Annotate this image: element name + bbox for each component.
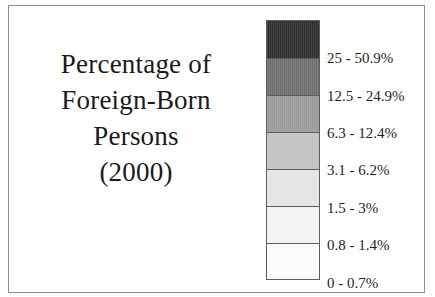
legend-class-label: 6.3 - 12.4% <box>327 125 397 142</box>
legend-swatch <box>267 244 319 279</box>
title-line-1: Percentage of <box>14 46 258 82</box>
legend-class-label: 3.1 - 6.2% <box>327 162 390 179</box>
legend-class-label: 0.8 - 1.4% <box>327 237 390 254</box>
title-line-4: (2000) <box>14 154 258 190</box>
legend-class-label: 0 - 0.7% <box>327 275 378 292</box>
map-legend-figure: Percentage of Foreign-Born Persons (2000… <box>0 0 435 297</box>
legend-label-column: 25 - 50.9%12.5 - 24.9%6.3 - 12.4%3.1 - 6… <box>327 20 427 280</box>
legend-class-label: 1.5 - 3% <box>327 200 378 217</box>
legend-title: Percentage of Foreign-Born Persons (2000… <box>14 46 258 190</box>
title-line-3: Persons <box>14 118 258 154</box>
legend-swatch <box>267 59 319 96</box>
legend-swatch <box>267 170 319 207</box>
legend-swatch <box>267 207 319 244</box>
legend-class-label: 25 - 50.9% <box>327 50 393 67</box>
legend-class-label: 12.5 - 24.9% <box>327 88 405 105</box>
legend-swatch <box>267 21 319 59</box>
legend-color-ramp <box>266 20 320 280</box>
title-line-2: Foreign-Born <box>14 82 258 118</box>
legend-swatch <box>267 96 319 133</box>
legend-swatch <box>267 133 319 170</box>
